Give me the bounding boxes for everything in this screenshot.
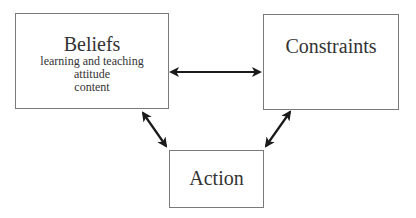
arrows-layer [0,0,416,218]
constraints-action-arrow-icon [266,112,290,146]
beliefs-action-arrow-icon [143,113,166,146]
